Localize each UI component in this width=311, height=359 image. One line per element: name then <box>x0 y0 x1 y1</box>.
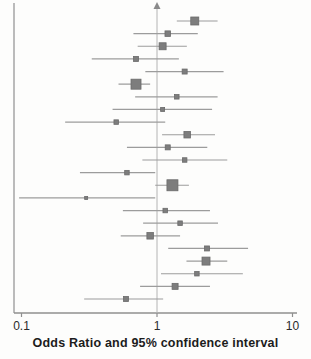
odds-ratio-marker <box>123 297 128 302</box>
odds-ratio-marker <box>134 56 139 61</box>
odds-ratio-marker <box>147 233 154 240</box>
odds-ratio-marker <box>172 283 178 289</box>
odds-ratio-marker <box>184 131 191 138</box>
odds-ratio-marker <box>159 43 166 50</box>
x-tick-label: 0.1 <box>13 319 30 333</box>
odds-ratio-marker <box>191 17 199 25</box>
odds-ratio-marker <box>163 208 168 213</box>
odds-ratio-marker <box>165 31 171 37</box>
odds-ratio-marker <box>202 257 210 265</box>
odds-ratio-marker <box>182 158 187 163</box>
x-tick-label: 10 <box>286 319 300 333</box>
odds-ratio-marker <box>114 120 119 125</box>
x-tick-label: 1 <box>154 319 161 333</box>
odds-ratio-marker <box>182 69 187 74</box>
odds-ratio-marker <box>165 145 170 150</box>
odds-ratio-marker <box>175 95 180 100</box>
odds-ratio-marker <box>125 170 129 175</box>
odds-ratio-marker <box>195 271 200 276</box>
odds-ratio-marker <box>161 107 165 111</box>
odds-ratio-marker <box>205 246 210 251</box>
plot-canvas: 0.1110 <box>0 0 311 359</box>
odds-ratio-marker <box>178 221 183 226</box>
forest-plot-figure: 0.1110 Odds Ratio and 95% confidence int… <box>0 0 311 359</box>
odds-ratio-marker <box>167 180 178 191</box>
reference-line-arrow-icon <box>154 2 161 9</box>
odds-ratio-marker <box>131 79 141 89</box>
x-axis-title: Odds Ratio and 95% confidence interval <box>0 336 311 350</box>
odds-ratio-marker <box>85 196 88 199</box>
